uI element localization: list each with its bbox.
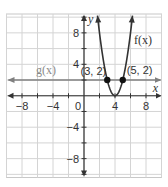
x-axis-label: x [152,81,159,95]
g-of-x-label: g(x) [36,63,56,77]
x-tick-label: 8 [143,100,149,112]
intersection-point [104,77,110,83]
g-left-arrow-icon [8,77,15,83]
function-graph: −8−404884−4−8yxf(x)g(x)(3, 2)(5, 2) [0,0,168,187]
x-tick-label: −4 [47,100,60,112]
y-axis-down-arrow-icon [81,171,87,177]
y-tick-label: 8 [73,27,79,39]
x-tick-label: −8 [16,100,29,112]
intersection-point [120,77,126,83]
x-tick-label: 0 [75,100,81,112]
point-label: (5, 2) [127,64,153,76]
y-tick-label: −8 [66,153,79,165]
y-tick-label: 4 [73,58,79,70]
f-of-x-label: f(x) [134,33,152,47]
point-label: (3, 2) [81,65,107,77]
x-axis-left-arrow-icon [8,93,14,99]
x-tick-label: 4 [112,100,118,112]
y-tick-label: −4 [66,121,79,133]
y-axis-label: y [87,12,94,26]
